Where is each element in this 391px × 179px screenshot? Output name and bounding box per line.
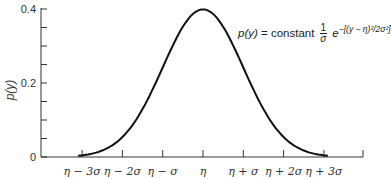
formula-lhs: p(y) — [238, 27, 258, 39]
y-tick-label: 0 — [30, 151, 36, 163]
x-tick-label: η + σ — [228, 165, 259, 178]
x-tick-label: η + 3σ — [305, 165, 343, 178]
x-tick-label: η — [200, 165, 207, 178]
x-tick-label: η + 2σ — [265, 165, 303, 178]
y-tick-label: 0.4 — [21, 3, 36, 15]
x-tick-label: η − 3σ — [63, 165, 101, 178]
y-tick-label: 0.2 — [21, 77, 36, 89]
density-formula: p(y) = constant 1σ e−[(y − η)²/2σ²] — [238, 23, 391, 44]
formula-eq: = constant — [258, 27, 318, 39]
x-tick-label: η − 2σ — [104, 165, 142, 178]
y-axis-label: p(y) — [3, 80, 17, 102]
y-ticks: 00.20.4 — [21, 3, 47, 163]
fraction-denominator: σ — [320, 34, 328, 44]
x-tick-label: η − σ — [148, 165, 179, 178]
exponent: −[(y − η)²/2σ²] — [339, 24, 391, 34]
formula-fraction: 1σ — [320, 23, 328, 44]
